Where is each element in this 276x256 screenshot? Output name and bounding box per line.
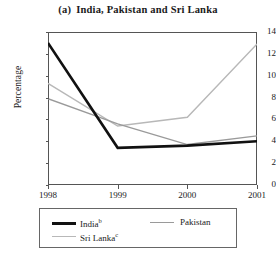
y-tick-mark: [46, 54, 49, 55]
chart-title-prefix: (a): [58, 4, 71, 15]
legend-swatch-sri-lanka: [52, 236, 76, 237]
legend-label-india: Indiab: [80, 217, 102, 229]
x-tick-mark: [118, 185, 119, 189]
y-tick-mark: [46, 163, 49, 164]
chart-title-text: India, Pakistan and Sri Lanka: [76, 4, 217, 15]
y-tick-label: 14: [232, 27, 276, 36]
legend-label-text: India: [80, 219, 99, 229]
legend-label-text: Pakistan: [180, 217, 211, 227]
y-axis-label: Percentage: [13, 47, 23, 127]
y-tick-label: 12: [232, 49, 276, 58]
legend-label-sri-lanka: Sri Lankac: [80, 231, 118, 243]
y-tick-label: 0: [232, 180, 276, 189]
y-tick-mark: [46, 98, 49, 99]
y-tick-label: 10: [232, 71, 276, 80]
legend-label-text: Sri Lanka: [80, 233, 115, 243]
chart-title: (a)India, Pakistan and Sri Lanka: [0, 4, 276, 15]
series-lines: [48, 32, 257, 185]
x-tick-mark: [257, 185, 258, 189]
legend-label-pakistan: Pakistan: [180, 217, 211, 227]
y-tick-label: 6: [232, 114, 276, 123]
series-line-sri-lanka: [48, 44, 257, 126]
x-tick-mark: [187, 185, 188, 189]
legend-label-superscript: b: [99, 217, 102, 224]
legend-swatch-india: [52, 222, 76, 225]
y-tick-mark: [46, 76, 49, 77]
legend-label-superscript: c: [115, 231, 118, 238]
x-tick-label: 2000: [167, 190, 207, 200]
x-tick-label: 1999: [98, 190, 138, 200]
y-tick-label: 2: [232, 158, 276, 167]
y-tick-label: 4: [232, 136, 276, 145]
y-tick-label: 8: [232, 93, 276, 102]
x-tick-label: 1998: [28, 190, 68, 200]
x-tick-mark: [48, 185, 49, 189]
chart-figure: (a)India, Pakistan and Sri Lanka Percent…: [0, 0, 276, 256]
y-tick-mark: [46, 32, 49, 33]
y-tick-mark: [46, 141, 49, 142]
series-line-india: [48, 43, 257, 148]
x-tick-label: 2001: [237, 190, 276, 200]
y-tick-mark: [46, 119, 49, 120]
legend-swatch-pakistan: [150, 222, 174, 223]
chart-legend: IndiabPakistanSri Lankac: [39, 208, 237, 248]
plot-area: Percentage 14121086420 1998199920002001: [0, 26, 276, 194]
